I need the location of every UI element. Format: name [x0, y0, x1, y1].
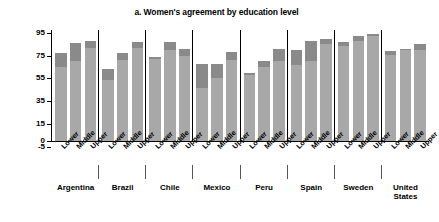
bar-segment-lower [320, 44, 332, 141]
y-tick-mark [47, 33, 51, 34]
bar [117, 53, 129, 141]
y-tick-mark [47, 147, 51, 148]
bar [385, 51, 397, 141]
bar [353, 36, 365, 141]
group-separator-lower [240, 165, 241, 179]
y-tick-mark [47, 141, 51, 142]
bar-segment-upper [196, 64, 208, 88]
bar-segment-lower [367, 36, 379, 141]
y-tick-mark [47, 101, 51, 102]
bar-segment-upper [273, 49, 285, 62]
bar-segment-upper [85, 41, 97, 48]
group-separator [98, 30, 99, 141]
bar [338, 42, 350, 141]
bar [179, 49, 191, 141]
group-separator [287, 30, 288, 141]
bar [55, 53, 67, 141]
group-separator-lower [192, 165, 193, 179]
y-tick-label: 95 [15, 29, 45, 37]
bar-segment-lower [414, 50, 426, 141]
bar [85, 41, 97, 141]
bar-segment-upper [179, 49, 191, 56]
y-tick-mark [47, 78, 51, 79]
y-tick-label: 0 [15, 137, 45, 145]
bar-segment-upper [226, 52, 238, 60]
bar-segment-lower [149, 59, 161, 141]
bar-segment-lower [305, 61, 317, 141]
bar [70, 43, 82, 141]
bar-segment-lower [117, 60, 129, 141]
bar [367, 34, 379, 141]
bar-segment-lower [70, 61, 82, 141]
group-separator [334, 30, 335, 141]
y-tick-mark [47, 56, 51, 57]
bar [414, 44, 426, 141]
bar-segment-lower [400, 50, 412, 141]
bar-segment-lower [353, 41, 365, 141]
group-separator-lower [145, 165, 146, 179]
chart-title: a. Women's agreement by education level [0, 7, 433, 17]
group-separator-lower [287, 165, 288, 179]
group-separator [381, 30, 382, 141]
bar-segment-lower [385, 55, 397, 141]
group-separator [240, 30, 241, 141]
bar-segment-upper [102, 69, 114, 79]
bar [273, 49, 285, 141]
bar-segment-lower [85, 48, 97, 141]
bar-segment-upper [55, 53, 67, 67]
bar-segment-upper [291, 50, 303, 65]
bar-segment-upper [164, 42, 176, 50]
bar-segment-upper [70, 43, 82, 61]
bar [132, 42, 144, 141]
bar [400, 49, 412, 141]
group-separator [145, 30, 146, 141]
y-tick-label: 55 [15, 74, 45, 82]
bar [164, 42, 176, 141]
bar [291, 50, 303, 141]
group-separator-lower [334, 165, 335, 179]
group-label-united-states: United States [378, 183, 433, 201]
bar [258, 61, 270, 141]
group-separator-lower [98, 165, 99, 179]
y-tick-label: 15 [15, 120, 45, 128]
bar-segment-lower [164, 50, 176, 141]
bar-segment-upper [211, 64, 223, 79]
group-separator [192, 30, 193, 141]
y-tick-label: 75 [15, 52, 45, 60]
bar-segment-lower [132, 48, 144, 141]
bar [149, 57, 161, 141]
bar-segment-lower [55, 67, 67, 141]
bar [305, 41, 317, 141]
bar [211, 64, 223, 141]
bar [320, 39, 332, 141]
y-tick-mark [47, 124, 51, 125]
y-axis-line [51, 30, 52, 142]
y-tick-label: 35 [15, 97, 45, 105]
bar-segment-upper [305, 41, 317, 61]
bar-segment-upper [117, 53, 129, 60]
group-separator-lower [381, 165, 382, 179]
bar-segment-lower [338, 46, 350, 141]
